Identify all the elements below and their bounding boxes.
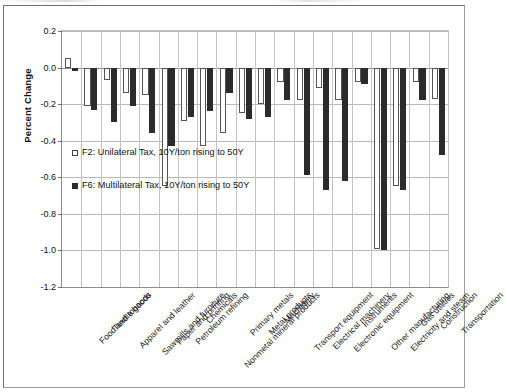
bar-f2 bbox=[142, 68, 148, 95]
legend-item-f2: F2: Unilateral Tax, 10Y/ton rising to 50… bbox=[72, 148, 249, 157]
legend-item-f6: F6: Multilateral Tax, 10Y/ton rising to … bbox=[72, 181, 249, 190]
bar-f6 bbox=[168, 68, 174, 147]
y-tick-label: -0.8 bbox=[40, 209, 56, 219]
legend-label-f6: F6: Multilateral Tax, 10Y/ton rising to … bbox=[82, 181, 249, 190]
bar-f2 bbox=[335, 68, 341, 101]
y-tick-label: -1.2 bbox=[40, 282, 56, 292]
bar-group bbox=[255, 31, 274, 287]
bar-f6 bbox=[91, 68, 97, 110]
bar-f2 bbox=[123, 68, 129, 94]
bar-group bbox=[332, 31, 351, 287]
bar-f6 bbox=[381, 68, 387, 251]
bar-f6 bbox=[265, 68, 271, 117]
bar-f6 bbox=[111, 68, 117, 123]
y-tick-label: -0.6 bbox=[40, 172, 56, 182]
y-tick-label: 0.2 bbox=[43, 26, 56, 36]
y-tick-mark bbox=[58, 287, 62, 288]
bar-f2 bbox=[258, 68, 264, 105]
bar-f2 bbox=[220, 68, 226, 134]
y-tick-label: 0.0 bbox=[43, 63, 56, 73]
y-tick-label: -0.4 bbox=[40, 136, 56, 146]
filled-square-icon bbox=[72, 183, 78, 189]
bar-f6 bbox=[361, 68, 367, 84]
bar-f6 bbox=[130, 68, 136, 106]
bar-f6 bbox=[439, 68, 445, 156]
bar-f2 bbox=[374, 68, 380, 249]
x-tick-label: Textile goods bbox=[111, 290, 154, 333]
bar-group bbox=[352, 31, 371, 287]
bar-f2 bbox=[104, 68, 110, 81]
x-axis-labels: Food and tobaccoTextile goodsApparel and… bbox=[61, 290, 449, 390]
bar-f2 bbox=[277, 68, 283, 83]
bar-f6 bbox=[149, 68, 155, 134]
gridline-y bbox=[62, 287, 448, 288]
bar-group bbox=[294, 31, 313, 287]
bar-f2 bbox=[239, 68, 245, 114]
bar-group bbox=[409, 31, 428, 287]
bar-f6 bbox=[246, 68, 252, 119]
y-axis-title: Percent Change bbox=[22, 41, 33, 171]
y-tick-label: -0.2 bbox=[40, 99, 56, 109]
bar-f6 bbox=[304, 68, 310, 176]
legend-label-f2: F2: Unilateral Tax, 10Y/ton rising to 50… bbox=[82, 148, 244, 157]
bar-f6 bbox=[342, 68, 348, 181]
bar-group bbox=[429, 31, 448, 287]
bar-f2 bbox=[297, 68, 303, 101]
bar-f6 bbox=[188, 68, 194, 117]
open-square-icon bbox=[72, 150, 78, 156]
bar-f2 bbox=[355, 68, 361, 83]
bar-f6 bbox=[284, 68, 290, 101]
bar-f2 bbox=[65, 58, 71, 67]
y-tick-label: -1.0 bbox=[40, 245, 56, 255]
bar-f2 bbox=[413, 68, 419, 83]
bar-f2 bbox=[200, 68, 206, 147]
bar-f6 bbox=[400, 68, 406, 191]
chart-legend: F2: Unilateral Tax, 10Y/ton rising to 50… bbox=[72, 148, 249, 214]
bar-f6 bbox=[226, 68, 232, 94]
bar-group bbox=[313, 31, 332, 287]
bar-f6 bbox=[72, 68, 78, 72]
bar-group bbox=[371, 31, 390, 287]
bar-group bbox=[390, 31, 409, 287]
bar-f6 bbox=[207, 68, 213, 112]
bar-group bbox=[274, 31, 293, 287]
bar-f6 bbox=[323, 68, 329, 191]
bar-f2 bbox=[84, 68, 90, 106]
bar-f2 bbox=[316, 68, 322, 88]
bar-f6 bbox=[419, 68, 425, 101]
bar-f2 bbox=[432, 68, 438, 99]
bar-f2 bbox=[181, 68, 187, 121]
bar-f2 bbox=[393, 68, 399, 187]
